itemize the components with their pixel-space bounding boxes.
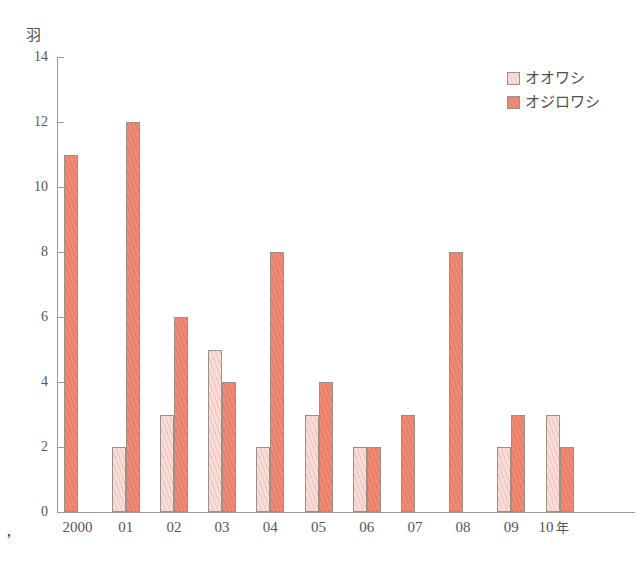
legend-swatch-icon-ojirowashi bbox=[507, 96, 520, 109]
legend: オオワシ オジロワシ bbox=[507, 66, 600, 114]
x-axis-tick-label: 10年 bbox=[514, 520, 594, 535]
bar-oowashi bbox=[305, 415, 319, 513]
bar-ojirowashi bbox=[511, 415, 525, 513]
y-axis-tick-label: 4 bbox=[0, 375, 48, 389]
y-axis-tick-label: 10 bbox=[0, 180, 48, 194]
y-axis-tick-label: 8 bbox=[0, 245, 48, 259]
x-axis-unit-suffix: 年 bbox=[556, 520, 569, 535]
bar-ojirowashi bbox=[174, 317, 188, 512]
bar-ojirowashi bbox=[401, 415, 415, 513]
legend-label-ojirowashi: オジロワシ bbox=[525, 95, 600, 110]
legend-label-oowashi: オオワシ bbox=[525, 71, 585, 86]
bar-oowashi bbox=[546, 415, 560, 513]
bar-oowashi bbox=[353, 447, 367, 512]
y-axis-tick-label: 12 bbox=[0, 115, 48, 129]
y-axis-unit-label: 羽 bbox=[26, 28, 41, 43]
bar-ojirowashi bbox=[126, 122, 140, 512]
legend-swatch-icon-oowashi bbox=[507, 72, 520, 85]
plot-area bbox=[57, 57, 633, 512]
bar-chart: 羽 02468101214 200001020304050607080910年 … bbox=[0, 0, 643, 566]
bar-ojirowashi bbox=[449, 252, 463, 512]
legend-item-1[interactable]: オジロワシ bbox=[507, 90, 600, 114]
legend-item-0[interactable]: オオワシ bbox=[507, 66, 600, 90]
y-axis-tick-label: 2 bbox=[0, 440, 48, 454]
y-axis-tick-label: 6 bbox=[0, 310, 48, 324]
bar-oowashi bbox=[112, 447, 126, 512]
scan-artifact-mark: ’ bbox=[6, 531, 12, 548]
bar-ojirowashi bbox=[222, 382, 236, 512]
bar-oowashi bbox=[497, 447, 511, 512]
y-axis-tick-mark bbox=[57, 512, 64, 513]
bar-oowashi bbox=[208, 350, 222, 513]
bar-ojirowashi bbox=[367, 447, 381, 512]
bar-ojirowashi bbox=[64, 155, 78, 513]
y-axis-tick-label: 0 bbox=[0, 505, 48, 519]
bar-ojirowashi bbox=[319, 382, 333, 512]
bar-ojirowashi bbox=[560, 447, 574, 512]
y-axis-tick-label: 14 bbox=[0, 50, 48, 64]
bar-oowashi bbox=[160, 415, 174, 513]
bar-ojirowashi bbox=[270, 252, 284, 512]
bar-oowashi bbox=[256, 447, 270, 512]
x-axis-line bbox=[57, 512, 635, 513]
